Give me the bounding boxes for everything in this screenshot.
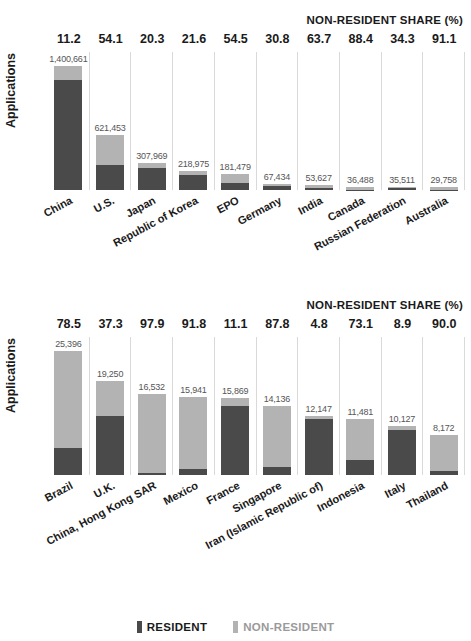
stacked-bar[interactable] xyxy=(179,397,207,475)
stacked-bar[interactable] xyxy=(138,163,166,190)
nonresident-share-value: 4.8 xyxy=(298,317,340,331)
nonresident-share-value: 8.9 xyxy=(382,317,424,331)
bar-segment-resident xyxy=(96,416,124,475)
bar-column[interactable]: 621,453 xyxy=(90,52,132,190)
xaxis-tick-label: EPO xyxy=(215,194,241,216)
bar-value-label: 218,975 xyxy=(178,159,209,169)
bar-segment-nonresident xyxy=(221,398,249,407)
xaxis-tick: Germany xyxy=(257,192,299,193)
bar-segment-resident xyxy=(179,469,207,475)
xaxis-tick: Singapore xyxy=(257,477,299,478)
xaxis-tick: Italy xyxy=(382,477,424,478)
stacked-bar[interactable] xyxy=(96,381,124,475)
bar-value-label: 36,488 xyxy=(347,175,373,185)
nonresident-share-value: 54.5 xyxy=(215,32,257,46)
xaxis-tick: Australia xyxy=(423,192,465,193)
bar-column[interactable]: 11,481 xyxy=(340,337,382,475)
xaxis-tick: Iran (Islamic Republic of) xyxy=(298,477,340,478)
stacked-bar[interactable] xyxy=(54,66,82,190)
nonresident-share-value: 88.4 xyxy=(340,32,382,46)
bar-column[interactable]: 35,511 xyxy=(382,52,424,190)
bar-segment-nonresident xyxy=(96,135,124,165)
share-title-top: NON-RESIDENT SHARE (%) xyxy=(307,14,463,26)
stacked-bar[interactable] xyxy=(96,135,124,190)
legend-item-nonresident: NON-RESIDENT xyxy=(233,621,334,633)
bar-column[interactable]: 218,975 xyxy=(173,52,215,190)
bar-value-label: 307,969 xyxy=(136,151,167,161)
xaxis-tick: Brazil xyxy=(48,477,90,478)
chart-legend: RESIDENT NON-RESIDENT xyxy=(0,621,471,633)
bar-column[interactable]: 14,136 xyxy=(257,337,299,475)
stacked-bar[interactable] xyxy=(388,187,416,190)
stacked-bar[interactable] xyxy=(305,416,333,475)
bar-value-label: 1,400,661 xyxy=(49,54,87,64)
stacked-bar[interactable] xyxy=(430,435,458,475)
stacked-bar[interactable] xyxy=(263,184,291,190)
xaxis-tick-label: Thailand xyxy=(404,479,450,511)
bar-segment-resident xyxy=(388,430,416,475)
bar-column[interactable]: 181,479 xyxy=(215,52,257,190)
yaxis-label-bottom-text: Applications xyxy=(4,391,18,413)
yaxis-label-bottom: Applications xyxy=(0,395,22,409)
bar-column[interactable]: 15,941 xyxy=(173,337,215,475)
bar-column[interactable]: 12,147 xyxy=(298,337,340,475)
xaxis-tick: France xyxy=(215,477,257,478)
bar-value-label: 16,532 xyxy=(139,382,165,392)
nonresident-share-value: 54.1 xyxy=(90,32,132,46)
xaxis-tick-label: Australia xyxy=(403,194,450,227)
bar-value-label: 53,627 xyxy=(305,173,331,183)
bar-segment-nonresident xyxy=(54,66,82,80)
bar-value-label: 29,758 xyxy=(431,175,457,185)
xaxis-tick: EPO xyxy=(215,192,257,193)
stacked-bar[interactable] xyxy=(138,394,166,475)
nonresident-share-value: 20.3 xyxy=(131,32,173,46)
bar-segment-resident xyxy=(305,419,333,475)
xaxis-tick: Russian Federation xyxy=(382,192,424,193)
bar-segment-resident xyxy=(263,467,291,475)
stacked-bar[interactable] xyxy=(263,406,291,475)
bar-value-label: 12,147 xyxy=(305,404,331,414)
nonresident-share-values-top: 11.254.120.321.654.530.863.788.434.391.1 xyxy=(48,32,465,46)
stacked-bar[interactable] xyxy=(54,351,82,475)
bar-column[interactable]: 10,127 xyxy=(382,337,424,475)
nonresident-share-value: 78.5 xyxy=(48,317,90,331)
bar-column[interactable]: 16,532 xyxy=(131,337,173,475)
legend-swatch-nonresident xyxy=(233,621,238,633)
xaxis-top: ChinaU.S.JapanRepublic of KoreaEPOGerman… xyxy=(48,192,465,193)
stacked-bar[interactable] xyxy=(221,398,249,475)
bar-value-label: 35,511 xyxy=(389,175,415,185)
xaxis-tick-label: Brazil xyxy=(42,479,74,504)
xaxis-tick: U.S. xyxy=(90,192,132,193)
yaxis-label-top: Applications xyxy=(0,110,22,124)
bar-segment-resident xyxy=(96,165,124,190)
stacked-bar[interactable] xyxy=(388,426,416,475)
stacked-bar[interactable] xyxy=(346,419,374,475)
bar-column[interactable]: 307,969 xyxy=(131,52,173,190)
bar-segment-nonresident xyxy=(96,381,124,416)
xaxis-tick: Mexico xyxy=(173,477,215,478)
bar-column[interactable]: 1,400,661 xyxy=(48,52,90,190)
bar-column[interactable]: 25,396 xyxy=(48,337,90,475)
xaxis-tick: Canada xyxy=(340,192,382,193)
nonresident-share-value: 21.6 xyxy=(173,32,215,46)
bar-value-label: 15,941 xyxy=(180,385,206,395)
xaxis-tick: Japan xyxy=(131,192,173,193)
stacked-bar[interactable] xyxy=(221,174,249,190)
bar-column[interactable]: 8,172 xyxy=(423,337,465,475)
stacked-bar[interactable] xyxy=(346,187,374,190)
nonresident-share-value: 91.1 xyxy=(423,32,465,46)
stacked-bar[interactable] xyxy=(305,185,333,190)
bar-column[interactable]: 19,250 xyxy=(90,337,132,475)
nonresident-share-value: 97.9 xyxy=(131,317,173,331)
bar-column[interactable]: 15,869 xyxy=(215,337,257,475)
bar-segment-resident xyxy=(346,460,374,475)
xaxis-tick: Indonesia xyxy=(340,477,382,478)
stacked-bar[interactable] xyxy=(430,187,458,190)
bar-column[interactable]: 29,758 xyxy=(423,52,465,190)
nonresident-share-value: 91.8 xyxy=(173,317,215,331)
bar-column[interactable]: 53,627 xyxy=(298,52,340,190)
bar-column[interactable]: 67,434 xyxy=(257,52,299,190)
stacked-bar[interactable] xyxy=(179,171,207,190)
bar-column[interactable]: 36,488 xyxy=(340,52,382,190)
xaxis-tick: Republic of Korea xyxy=(173,192,215,193)
